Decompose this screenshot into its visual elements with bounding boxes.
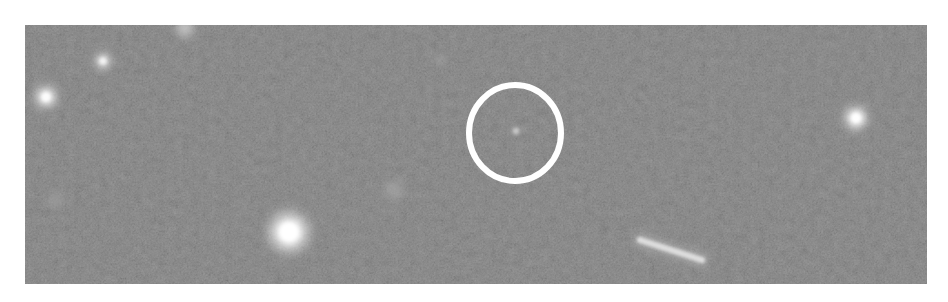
faint-blob-left-icon	[42, 187, 68, 213]
faint-target-icon	[507, 125, 525, 136]
sky-field	[25, 25, 927, 284]
bright-star-lower-left-icon	[267, 210, 311, 254]
star-right-icon	[843, 105, 869, 131]
star-upper-left-icon	[93, 51, 114, 72]
image-canvas	[0, 0, 948, 302]
faint-blob-center-icon	[378, 174, 409, 205]
faint-dot-upper-icon	[434, 54, 447, 67]
star-left-icon	[33, 84, 59, 110]
astronomical-image	[25, 25, 927, 284]
